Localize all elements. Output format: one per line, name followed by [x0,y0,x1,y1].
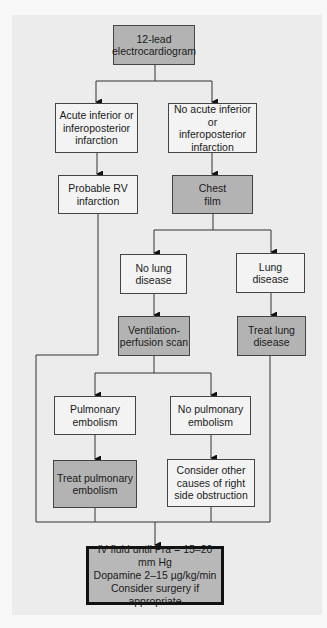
node-chest-film: Chest film [172,175,253,214]
node-acute-inferior: Acute inferior or inferoposterior infarc… [55,103,138,153]
node-treat-lung-disease: Treat lung disease [237,316,306,356]
node-final-treatment: IV fluid until Pra = 15–20 mm Hg Dopamin… [86,546,224,605]
node-ecg: 12-lead electrocardiogram [113,25,195,65]
flowchart-canvas: 12-lead electrocardiogram Acute inferior… [0,0,327,628]
node-probable-rv: Probable RV infarction [58,175,138,214]
node-lung-disease: Lung disease [236,253,305,293]
node-pulmonary-embolism: Pulmonary embolism [54,396,136,435]
connector-lines [0,0,327,628]
node-other-causes: Consider other causes of right side obst… [167,459,255,507]
node-vq-scan: Ventilation- perfusion scan [118,316,190,356]
node-no-lung-disease: No lung disease [120,254,187,294]
node-no-acute-inferior: No acute inferior or inferoposterior inf… [168,103,257,153]
node-treat-pe: Treat pulmonary embolism [53,460,137,508]
node-no-pulmonary-embolism: No pulmonary embolism [170,396,251,435]
